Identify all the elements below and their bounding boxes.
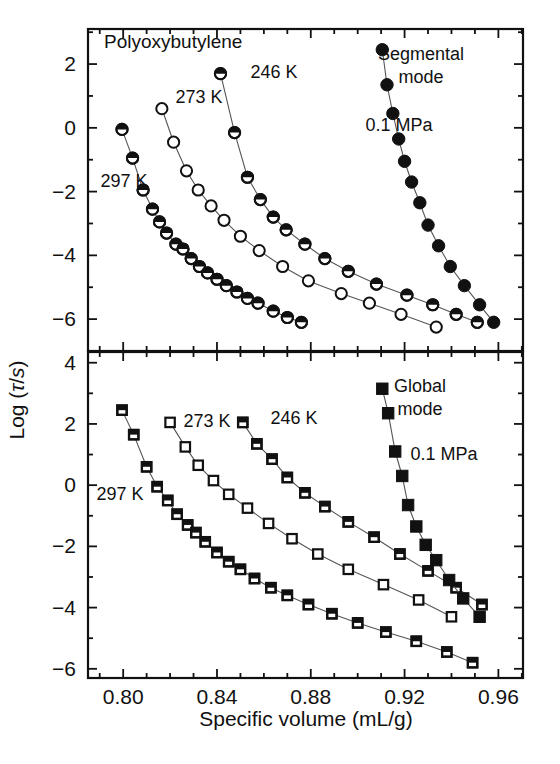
x-tick-label: 0.80 [103, 685, 144, 708]
y-tick-label: −2 [52, 180, 76, 203]
upper-series-label-273k: 273 K [175, 87, 222, 107]
lower-series-label-273k: 273 K [183, 411, 230, 431]
lower-panel-label-line1: Global [394, 376, 446, 396]
upper-panel-label-line1: Segmental [378, 44, 464, 64]
lower-series-label-297k: 297 K [96, 484, 143, 504]
x-axis-label: Specific volume (mL/g) [199, 707, 413, 730]
x-tick-label: 0.84 [197, 685, 238, 708]
y-tick-label: 0 [64, 473, 76, 496]
y-tick-label: −6 [52, 307, 76, 330]
y-tick-label: 0 [64, 116, 76, 139]
y-axis-label: Log (τ/s) [5, 360, 28, 439]
y-tick-label: −4 [52, 596, 76, 619]
y-tick-label: 2 [64, 412, 76, 435]
figure-container: −6−4−202 −6−4−20240.800.840.880.920.96 L… [0, 0, 560, 764]
x-tick-label: 0.88 [290, 685, 331, 708]
y-tick-label: −4 [52, 243, 76, 266]
plot-title: Polyoxybutylene [104, 31, 242, 52]
y-tick-label: −2 [52, 534, 76, 557]
upper-pressure-label: 0.1 MPa [365, 115, 433, 135]
upper-series-label-246k: 246 K [250, 62, 297, 82]
lower-pressure-label: 0.1 MPa [410, 444, 478, 464]
lower-series-label-246k: 246 K [270, 408, 317, 428]
chart-svg: −6−4−202 −6−4−20240.800.840.880.920.96 L… [0, 0, 560, 764]
figure-background [0, 0, 560, 764]
y-tick-label: 2 [64, 52, 76, 75]
upper-series-label-297k: 297 K [100, 171, 147, 191]
lower-panel-label-line2: mode [397, 399, 442, 419]
x-tick-label: 0.96 [478, 685, 519, 708]
x-tick-label: 0.92 [384, 685, 425, 708]
y-tick-label: 4 [64, 351, 76, 374]
y-tick-label: −6 [52, 657, 76, 680]
upper-panel-label-line2: mode [398, 67, 443, 87]
